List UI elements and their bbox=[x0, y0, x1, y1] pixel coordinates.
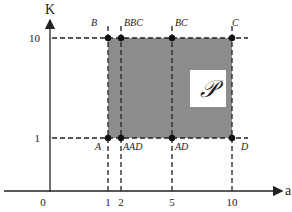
label-aad: AAD bbox=[122, 141, 143, 152]
y-tick-1: 1 bbox=[35, 132, 41, 144]
x-tick-10: 10 bbox=[227, 196, 239, 208]
point-b bbox=[105, 35, 111, 41]
label-ad: AD bbox=[174, 141, 189, 152]
label-bbc: BBC bbox=[124, 17, 143, 28]
parameter-space-diagram: 𝒫 K a 0 10 1 1 2 5 10 A AAD AD D B BBC B… bbox=[0, 0, 292, 212]
point-bc bbox=[169, 35, 175, 41]
origin-label: 0 bbox=[40, 196, 46, 208]
label-c: C bbox=[232, 17, 239, 28]
label-a: A bbox=[94, 141, 102, 152]
point-c bbox=[229, 35, 235, 41]
point-d bbox=[229, 135, 235, 141]
point-bbc bbox=[118, 35, 124, 41]
label-bc: BC bbox=[175, 17, 188, 28]
y-axis-label: K bbox=[45, 2, 55, 17]
label-d: D bbox=[240, 141, 249, 152]
x-tick-2: 2 bbox=[118, 196, 124, 208]
label-b: B bbox=[91, 17, 97, 28]
x-tick-1: 1 bbox=[105, 196, 111, 208]
y-tick-10: 10 bbox=[29, 32, 41, 44]
x-axis-label: a bbox=[285, 183, 292, 198]
x-tick-5: 5 bbox=[169, 196, 175, 208]
point-a bbox=[105, 135, 111, 141]
